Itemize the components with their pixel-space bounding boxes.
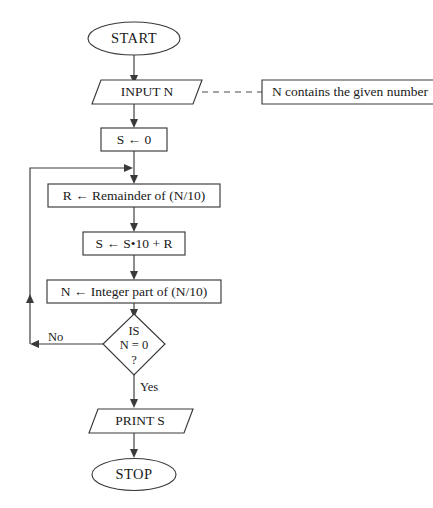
node-start-label: START <box>111 30 157 46</box>
edge-label-yes: Yes <box>140 380 158 394</box>
node-integer-part-label: N ← Integer part of (N/10) <box>61 284 208 299</box>
connector-print-to-stop <box>130 433 138 458</box>
node-init-s[interactable]: S ← 0 <box>101 128 167 151</box>
node-input-n[interactable]: INPUT N <box>92 80 202 104</box>
flowchart-canvas: START INPUT N N contains the given numbe… <box>0 0 433 508</box>
node-annotation-label: N contains the given number <box>272 84 428 99</box>
connector-decision-yes <box>130 375 138 408</box>
node-stop[interactable]: STOP <box>92 459 176 491</box>
node-init-s-label: S ← 0 <box>117 132 152 147</box>
node-decision-line3: ? <box>131 353 137 367</box>
node-remainder-label: R ← Remainder of (N/10) <box>63 188 205 203</box>
connector-input-to-init <box>130 104 138 128</box>
node-accumulate-label: S ← S•10 + R <box>96 236 173 251</box>
connector-accumulate-to-integer <box>130 254 138 280</box>
edge-label-no: No <box>48 330 63 344</box>
connector-remainder-to-accumulate <box>130 206 138 232</box>
connector-decision-no <box>30 340 103 348</box>
node-remainder[interactable]: R ← Remainder of (N/10) <box>48 184 220 207</box>
node-integer-part[interactable]: N ← Integer part of (N/10) <box>47 280 221 303</box>
node-decision-line2: N = 0 <box>120 338 149 352</box>
node-decision-line1: IS <box>128 324 139 338</box>
node-annotation: N contains the given number <box>262 80 433 104</box>
node-decision[interactable]: IS N = 0 ? <box>103 314 165 375</box>
node-print-s-label: PRINT S <box>115 413 165 428</box>
node-input-n-label: INPUT N <box>121 84 174 99</box>
node-start[interactable]: START <box>88 22 180 55</box>
node-stop-label: STOP <box>116 466 153 482</box>
node-print-s[interactable]: PRINT S <box>89 409 193 433</box>
node-accumulate[interactable]: S ← S•10 + R <box>83 232 185 255</box>
flowchart-svg: START INPUT N N contains the given numbe… <box>0 0 433 508</box>
